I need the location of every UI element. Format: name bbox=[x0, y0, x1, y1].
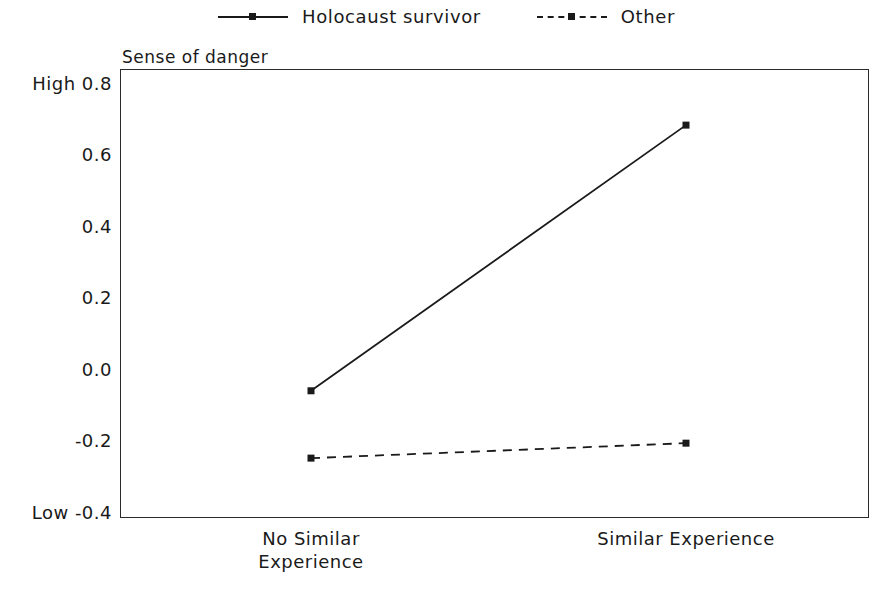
data-point-marker-s0-p1 bbox=[683, 122, 690, 129]
legend-label-holocaust-survivor: Holocaust survivor bbox=[302, 6, 481, 27]
chart-figure: Holocaust survivor Other Sense of danger… bbox=[0, 0, 893, 598]
series-line-1 bbox=[311, 443, 686, 458]
y-tick-label-0-4: 0.4 bbox=[82, 216, 112, 237]
chart-legend: Holocaust survivor Other bbox=[0, 6, 893, 27]
y-tick-value-0-8: 0.8 bbox=[82, 73, 112, 94]
x-tick-label-no-similar-experience: No Similar Experience bbox=[258, 528, 363, 573]
x-tick-label-similar-experience: Similar Experience bbox=[597, 528, 775, 551]
legend-key-dashed-line-icon bbox=[537, 10, 607, 24]
y-axis-title: Sense of danger bbox=[122, 47, 268, 67]
y-tick-label-0-8: High 0.8 bbox=[32, 73, 112, 94]
plot-data-layer bbox=[120, 69, 869, 518]
y-axis-high-label: High bbox=[32, 73, 75, 94]
legend-entry-other: Other bbox=[537, 6, 675, 27]
y-tick-label-0-6: 0.6 bbox=[82, 144, 112, 165]
y-tick-label-minus-0-4: Low -0.4 bbox=[32, 502, 112, 523]
y-axis-low-label: Low bbox=[32, 502, 69, 523]
data-point-marker-s0-p0 bbox=[308, 387, 315, 394]
legend-key-solid-line-icon bbox=[218, 10, 288, 24]
legend-entry-holocaust-survivor: Holocaust survivor bbox=[218, 6, 481, 27]
data-point-marker-s1-p0 bbox=[308, 455, 315, 462]
data-point-marker-s1-p1 bbox=[683, 440, 690, 447]
y-tick-label-minus-0-2: -0.2 bbox=[75, 430, 112, 451]
y-tick-value-minus-0-4: -0.4 bbox=[75, 502, 112, 523]
series-line-0 bbox=[311, 125, 686, 391]
legend-label-other: Other bbox=[621, 6, 675, 27]
y-tick-label-0-0: 0.0 bbox=[82, 359, 112, 380]
y-tick-label-0-2: 0.2 bbox=[82, 287, 112, 308]
